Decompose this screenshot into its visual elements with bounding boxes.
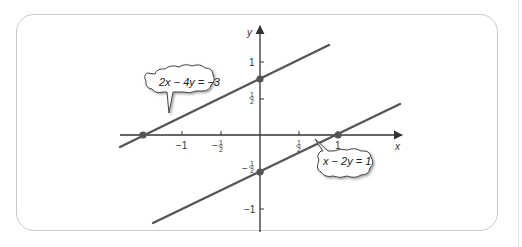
y-tick-label-1: 1: [249, 57, 255, 68]
y-tick-label-neg-1: −1: [244, 204, 256, 215]
point-y-intercept-line2: [256, 168, 263, 175]
callout-text-line2: x − 2y = 1: [322, 155, 371, 167]
svg-text:1: 1: [250, 91, 254, 98]
svg-text:2: 2: [219, 146, 223, 153]
x-axis-label: x: [394, 141, 401, 152]
y-tick-label-neg-half: − 1 2: [242, 160, 254, 174]
line-2x-4y-eq-neg3: [120, 45, 329, 147]
y-tick-label-half: 1 2: [249, 91, 254, 105]
point-x-intercept-line2: [334, 131, 341, 138]
point-y-intercept-line1: [256, 75, 263, 82]
callout-line2: x − 2y = 1: [315, 139, 373, 178]
svg-text:1: 1: [219, 139, 223, 146]
callout-text-line1: 2x − 4y = −3: [158, 76, 221, 88]
svg-text:2: 2: [250, 167, 254, 174]
svg-text:−: −: [212, 140, 218, 151]
point-x-intercept-line1: [139, 131, 146, 138]
svg-text:1: 1: [250, 160, 254, 167]
y-axis-label: y: [246, 27, 253, 38]
x-tick-label-neg-half: − 1 2: [212, 139, 223, 153]
callout-line1: 2x − 4y = −3: [145, 65, 221, 113]
coordinate-plane: x y −1 − 1 2 1 2 1 1 1 2 − 1 2 −1: [0, 0, 522, 247]
svg-text:2: 2: [250, 98, 254, 105]
svg-text:−: −: [242, 163, 248, 174]
x-tick-label-neg-1: −1: [176, 140, 188, 151]
svg-text:1: 1: [297, 139, 301, 146]
